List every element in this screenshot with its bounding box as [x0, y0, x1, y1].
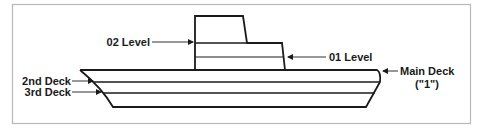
label-main-deck-number: ("1"): [415, 78, 439, 90]
ship-deck-diagram: 02 Level 01 Level Main Deck ("1") 2nd De…: [0, 0, 478, 129]
diagram-frame: [13, 5, 471, 124]
label-01-level: 01 Level: [329, 51, 372, 63]
label-3rd-deck: 3rd Deck: [25, 86, 72, 98]
label-02-level: 02 Level: [107, 36, 150, 48]
label-main-deck: Main Deck: [400, 65, 455, 77]
